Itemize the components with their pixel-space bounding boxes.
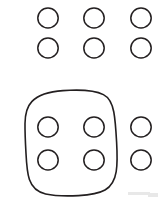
faint-scan-smudge	[128, 192, 150, 195]
circles-grouping-figure	[0, 0, 164, 210]
paper-background	[0, 0, 164, 210]
worksheet-canvas: Circle Grouping Worksheet Hand-drawn wor…	[0, 0, 164, 210]
faint-scan-smudge-secondary	[148, 193, 158, 197]
